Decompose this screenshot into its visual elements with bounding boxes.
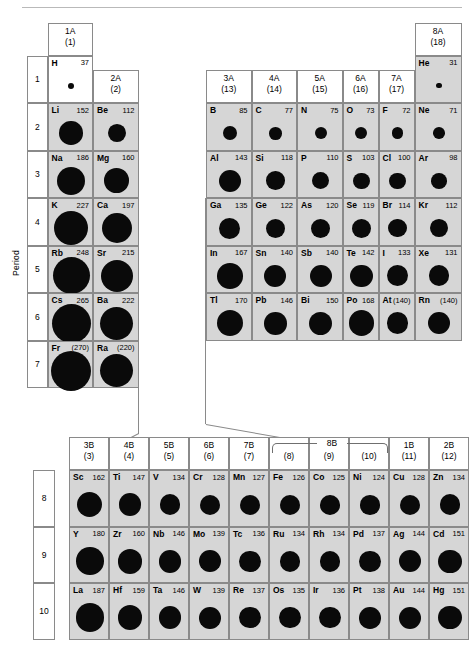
group-header-number: (11) — [390, 451, 428, 462]
atomic-radius-value: 144 — [412, 586, 425, 596]
element-cell-sc: Sc162 — [69, 470, 109, 527]
element-cell-ar: Ar98 — [415, 151, 462, 199]
atomic-radius-value: 146 — [172, 586, 185, 596]
element-symbol: Sr — [97, 248, 106, 258]
atomic-radius-value: 133 — [398, 248, 411, 258]
element-symbol: Ca — [97, 200, 108, 210]
radius-circle — [433, 127, 445, 139]
element-cell-tl: Tl170 — [206, 293, 252, 341]
element-symbol: Al — [210, 153, 219, 163]
radius-circle — [280, 495, 300, 515]
element-symbol: Cl — [383, 153, 392, 163]
radius-circle — [239, 607, 260, 628]
atomic-radius-value: 135 — [235, 201, 248, 211]
element-symbol: Po — [347, 295, 358, 305]
atomic-radius-value: 71 — [449, 106, 457, 116]
element-symbol: Nb — [153, 529, 164, 539]
element-symbol: Sn — [256, 248, 267, 258]
radius-circle — [312, 172, 330, 190]
element-symbol: Ru — [273, 529, 284, 539]
element-cell-in: In167 — [206, 246, 252, 294]
element-cell-mg: Mg160 — [93, 151, 139, 199]
group-header-number: (17) — [380, 84, 414, 95]
element-symbol: Kr — [419, 200, 428, 210]
radius-circle — [264, 312, 287, 335]
radius-circle — [349, 310, 375, 336]
element-cell-cs: Cs265 — [48, 293, 94, 341]
radius-circle — [266, 171, 285, 190]
radius-circle — [320, 551, 341, 572]
element-cell-bi: Bi150 — [297, 293, 343, 341]
element-symbol: Br — [383, 200, 392, 210]
element-cell-co: Co125 — [309, 470, 349, 527]
element-symbol: Sb — [301, 248, 312, 258]
atomic-radius-value: 186 — [76, 153, 89, 163]
atomic-radius-value: 131 — [445, 248, 458, 258]
group-header-top: 7B — [230, 440, 268, 451]
element-cell-zr: Zr160 — [109, 527, 149, 584]
element-cell-ge: Ge122 — [252, 198, 298, 246]
atomic-radius-value: 146 — [172, 529, 185, 539]
radius-circle — [359, 607, 381, 629]
atomic-radius-value: (140) — [440, 296, 458, 306]
element-cell-ag: Ag144 — [389, 527, 429, 584]
element-cell-sn: Sn140 — [252, 246, 298, 294]
element-symbol: Mn — [233, 472, 245, 482]
element-cell-ni: Ni124 — [349, 470, 389, 527]
element-cell-f: F72 — [379, 103, 415, 151]
group-header-number: (13) — [207, 84, 251, 95]
d-block-row-number-10: 10 — [33, 583, 55, 640]
radius-circle — [429, 265, 450, 286]
element-symbol: I — [383, 248, 385, 258]
radius-circle — [54, 211, 88, 245]
element-cell-hf: Hf159 — [109, 583, 149, 640]
element-symbol: Ra — [97, 343, 108, 353]
atomic-radius-value: 77 — [285, 106, 293, 116]
radius-circle — [52, 304, 91, 343]
atomic-radius-value: 128 — [212, 473, 225, 483]
element-cell-xe: Xe131 — [415, 246, 462, 294]
periodic-table-figure: Period 1A(1)2A(2)3A(13)4A(14)5A(15)6A(16… — [0, 0, 469, 659]
atomic-radius-value: 134 — [332, 529, 345, 539]
atomic-radius-value: 143 — [235, 153, 248, 163]
period-number-5: 5 — [27, 246, 48, 294]
radius-circle — [428, 312, 450, 334]
radius-circle — [319, 607, 340, 628]
element-symbol: Ne — [419, 105, 430, 115]
element-cell-pd: Pd137 — [349, 527, 389, 584]
element-cell-ti: Ti147 — [109, 470, 149, 527]
element-symbol: Zn — [433, 472, 443, 482]
element-cell-n: N75 — [297, 103, 343, 151]
radius-circle — [100, 307, 133, 340]
group-header-number: (5) — [150, 451, 188, 462]
radius-circle — [217, 263, 243, 289]
radius-circle — [280, 551, 301, 572]
element-cell-nb: Nb146 — [149, 527, 189, 584]
element-symbol: B — [210, 105, 216, 115]
atomic-radius-value: 73 — [366, 106, 374, 116]
radius-circle — [77, 492, 102, 517]
radius-circle — [264, 265, 286, 287]
element-symbol: Ar — [419, 153, 428, 163]
atomic-radius-value: 136 — [252, 529, 265, 539]
group-header-number: (3) — [70, 451, 108, 462]
group-header-number: (18) — [416, 37, 461, 48]
atomic-radius-value: 126 — [292, 473, 305, 483]
group-header-2b: 2B(12) — [429, 437, 469, 470]
element-symbol: O — [347, 105, 354, 115]
atomic-radius-value: 119 — [363, 201, 375, 211]
radius-circle — [266, 219, 285, 238]
element-cell-sb: Sb140 — [297, 246, 343, 294]
radius-circle — [240, 495, 260, 515]
radius-circle — [315, 127, 327, 139]
group-header-top: 8A — [416, 26, 461, 37]
element-cell-kr: Kr112 — [415, 198, 462, 246]
radius-circle — [269, 127, 282, 140]
radius-circle — [438, 550, 461, 573]
atomic-radius-value: 139 — [212, 586, 225, 596]
element-cell-ra: Ra(220) — [93, 341, 139, 389]
group-header-7b: 7B(7) — [229, 437, 269, 470]
element-symbol: Os — [273, 585, 284, 595]
radius-circle — [160, 494, 181, 515]
atomic-radius-value: 197 — [122, 201, 135, 211]
